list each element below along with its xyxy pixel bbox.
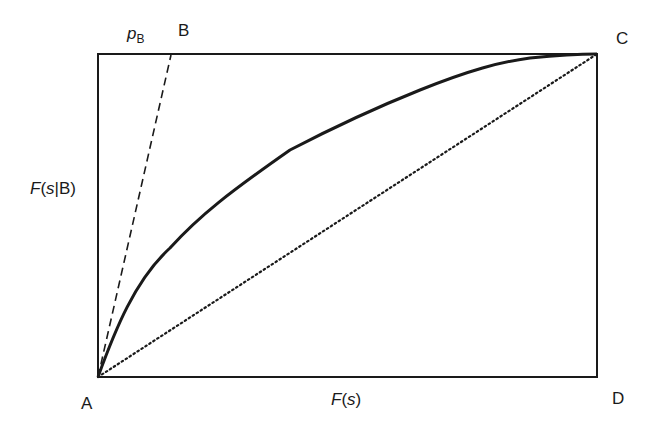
point-c-label: C <box>616 30 628 47</box>
x-axis-label: F(s) <box>331 391 361 408</box>
diagram-canvas <box>0 0 655 439</box>
dotted-diagonal-a-to-c <box>98 54 597 377</box>
point-b-label: B <box>178 22 189 39</box>
pb-label: pB <box>127 25 144 42</box>
dashed-line-a-to-b <box>98 55 171 377</box>
y-axis-label: F(s|B) <box>30 180 76 197</box>
point-d-label: D <box>612 390 624 407</box>
point-a-label: A <box>81 395 92 412</box>
